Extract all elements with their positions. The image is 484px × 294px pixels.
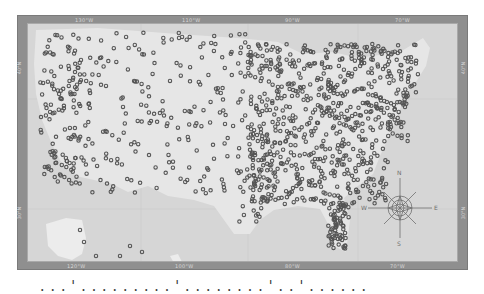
compass-west-label: W [361, 204, 367, 211]
bottom-label-3: 80°W [285, 263, 300, 269]
right-label-2: 30°N [460, 207, 466, 220]
left-label-2: 30°N [16, 207, 22, 220]
compass-south-label: S [397, 240, 401, 247]
compass-rose-icon [368, 178, 432, 238]
hawaii-land [170, 254, 182, 262]
left-label-1: 40°N [16, 62, 22, 75]
map-canvas: N S W E [28, 24, 458, 262]
contiguous-us-land [34, 28, 430, 252]
cropped-caption: ...'.........'........'..'...... [40, 278, 372, 294]
map-frame: 130°W 110°W 90°W 70°W 120°W 100°W 80°W 7… [17, 15, 468, 270]
bottom-label-2: 100°W [175, 263, 194, 269]
map-area[interactable]: N S W E [27, 23, 458, 262]
compass-north-label: N [397, 169, 402, 176]
alaska-land [46, 218, 86, 260]
right-label-1: 40°N [460, 62, 466, 75]
bottom-label-1: 120°W [67, 263, 86, 269]
bottom-label-4: 70°W [390, 263, 405, 269]
compass-east-label: E [434, 204, 438, 211]
